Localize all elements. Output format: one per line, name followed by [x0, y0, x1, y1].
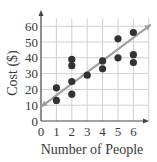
x-tick-label: 6: [130, 124, 137, 139]
data-point: [68, 62, 75, 69]
y-tick-label: 40: [25, 50, 38, 65]
data-point: [68, 91, 75, 98]
y-tick-label: 0: [32, 114, 39, 129]
data-point: [68, 78, 75, 85]
data-point: [130, 29, 137, 36]
y-tick-label: 30: [25, 66, 38, 81]
x-axis-arrow-icon: [143, 119, 149, 124]
x-tick-label: 2: [69, 124, 76, 139]
data-point: [130, 59, 137, 66]
data-point: [114, 54, 121, 61]
x-tick-label: 5: [115, 124, 122, 139]
x-tick-label: 0: [38, 124, 45, 139]
data-point: [84, 72, 91, 79]
y-tick-label: 60: [25, 19, 38, 34]
data-point: [99, 57, 106, 64]
x-tick-label: 4: [99, 124, 106, 139]
data-point: [53, 97, 60, 104]
y-tick-label: 10: [25, 98, 38, 113]
y-tick-label: 20: [25, 82, 38, 97]
x-tick-label: 1: [53, 124, 60, 139]
x-axis-label: Number of People: [41, 142, 144, 157]
data-point: [99, 65, 106, 72]
data-point: [114, 35, 121, 42]
y-axis-arrow-icon: [39, 10, 44, 16]
data-point: [130, 51, 137, 58]
scatter-chart: 01234560102030405060 Number of People Co…: [0, 0, 157, 162]
x-tick-label: 3: [84, 124, 91, 139]
data-point: [68, 56, 75, 63]
data-point: [53, 84, 60, 91]
y-tick-label: 50: [25, 35, 38, 50]
y-axis-label: Cost ($): [5, 50, 21, 96]
